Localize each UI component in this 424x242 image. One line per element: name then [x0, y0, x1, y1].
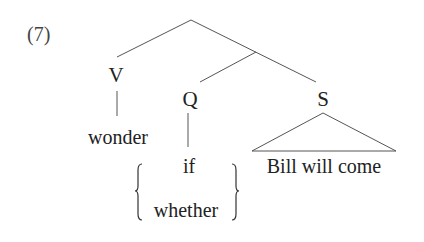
node-s-label: S	[317, 87, 329, 111]
terminal-wonder: wonder	[88, 126, 148, 148]
terminal-if: if	[183, 155, 196, 177]
triangle-s	[252, 113, 396, 151]
terminal-whether: whether	[154, 199, 219, 221]
right-brace	[232, 164, 239, 220]
terminal-bill-will-come: Bill will come	[267, 155, 382, 177]
left-brace	[135, 164, 142, 220]
node-q-label: Q	[182, 87, 197, 111]
edge-root-v	[117, 20, 191, 57]
edge-root-s	[191, 20, 316, 82]
example-number: (7)	[27, 23, 50, 46]
edge-branch-q	[200, 52, 256, 82]
node-v-label: V	[108, 63, 123, 87]
syntax-tree-diagram: (7) V wonder Q if whether S Bill will co…	[0, 0, 424, 242]
